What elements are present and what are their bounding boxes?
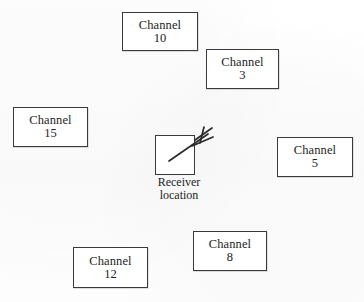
channel-label: Channel bbox=[139, 19, 181, 32]
channel-box-12[interactable]: Channel 12 bbox=[73, 247, 148, 288]
channel-box-10[interactable]: Channel 10 bbox=[122, 12, 198, 51]
receiver-caption-line-1: Receiver bbox=[139, 176, 219, 189]
receiver-caption: Receiver location bbox=[139, 176, 219, 201]
receiver-caption-line-2: location bbox=[139, 189, 219, 202]
channel-label: Channel bbox=[89, 255, 131, 268]
channel-box-5[interactable]: Channel 5 bbox=[277, 137, 353, 177]
channel-number: 8 bbox=[227, 251, 233, 264]
channel-box-15[interactable]: Channel 15 bbox=[13, 107, 88, 147]
channel-number: 3 bbox=[239, 69, 245, 82]
channel-number: 12 bbox=[104, 268, 117, 281]
channel-number: 10 bbox=[154, 32, 167, 45]
channel-number: 5 bbox=[312, 157, 318, 170]
channel-box-3[interactable]: Channel 3 bbox=[206, 49, 279, 89]
channel-number: 15 bbox=[44, 127, 57, 140]
channel-box-8[interactable]: Channel 8 bbox=[193, 231, 267, 271]
receiver-group[interactable]: Receiver location bbox=[143, 126, 215, 206]
diagram-canvas: Channel 10 Channel 3 Channel 15 Channel … bbox=[0, 0, 364, 302]
